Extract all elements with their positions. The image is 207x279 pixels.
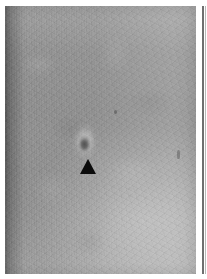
radiograph-image [5, 6, 196, 274]
arrowhead-marker-icon [80, 159, 96, 174]
film-right-edge-rule [202, 6, 204, 274]
film-edge-vignette [5, 6, 196, 274]
image-speck-upper [114, 110, 117, 114]
figure-page [0, 0, 207, 279]
film-right-edge-rule-highlight [205, 6, 206, 274]
image-speck-right [177, 150, 180, 159]
